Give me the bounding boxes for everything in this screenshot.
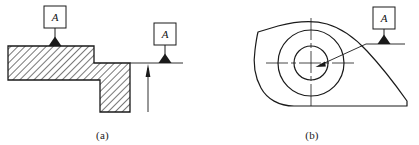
panel-a-drawing: A A: [0, 0, 205, 145]
panel-b-caption: (b): [205, 129, 419, 141]
dimension-arrow-head-icon: [146, 64, 151, 77]
datum-feature-symbol-a2[interactable]: A: [154, 23, 176, 63]
datum-letter-a2: A: [161, 28, 169, 40]
panel-b-drawing: A: [205, 0, 419, 145]
datum-letter-b: A: [380, 12, 388, 24]
datum-triangle-icon: [159, 54, 172, 64]
datum-feature-symbol-a1[interactable]: A: [44, 6, 66, 46]
panel-a: A A (a): [0, 0, 205, 145]
datum-triangle-icon: [49, 37, 62, 47]
figure-root: A A (a): [0, 0, 419, 145]
datum-triangle-icon: [378, 35, 391, 45]
stepped-part-body: [8, 46, 130, 112]
panel-a-caption: (a): [0, 129, 205, 141]
panel-b: A (b): [205, 0, 419, 145]
datum-letter-a1: A: [51, 11, 59, 23]
